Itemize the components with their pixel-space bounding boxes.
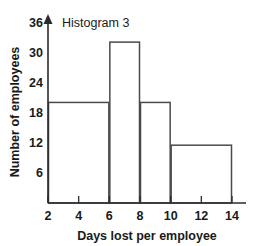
y-axis-tick-labels: 6 12 18 24 30 36 [29,16,43,181]
x-axis-tick-labels: 2 4 6 8 10 12 14 [45,209,239,223]
bars-group [49,42,232,203]
y-tick-label-5: 36 [29,16,43,30]
bar-bin-3 [141,102,171,203]
y-tick-label-0: 6 [36,166,43,180]
bar-bin-1 [49,102,109,203]
y-tick-label-2: 18 [29,106,43,120]
y-tick-label-3: 24 [29,76,43,90]
y-tick-label-4: 30 [29,46,43,60]
x-tick-label-0: 2 [45,209,52,223]
x-tick-label-6: 14 [225,209,239,223]
bar-bin-4 [171,145,231,203]
y-axis-title: Number of employees [8,47,22,178]
y-axis-arrow-icon [44,14,53,24]
chart-title: Histogram 3 [62,16,129,30]
x-tick-label-4: 10 [164,209,178,223]
x-tick-label-5: 12 [194,209,208,223]
histogram-plot: 2 4 6 8 10 12 14 6 12 18 24 30 36 Days l… [0,0,255,246]
x-tick-label-2: 6 [106,209,113,223]
x-axis-title: Days lost per employee [77,229,217,243]
x-tick-label-1: 4 [75,209,82,223]
x-tick-label-3: 8 [137,209,144,223]
bar-bin-2 [110,42,140,203]
histogram-chart: 2 4 6 8 10 12 14 6 12 18 24 30 36 Days l… [0,0,255,246]
y-tick-label-1: 12 [29,136,43,150]
